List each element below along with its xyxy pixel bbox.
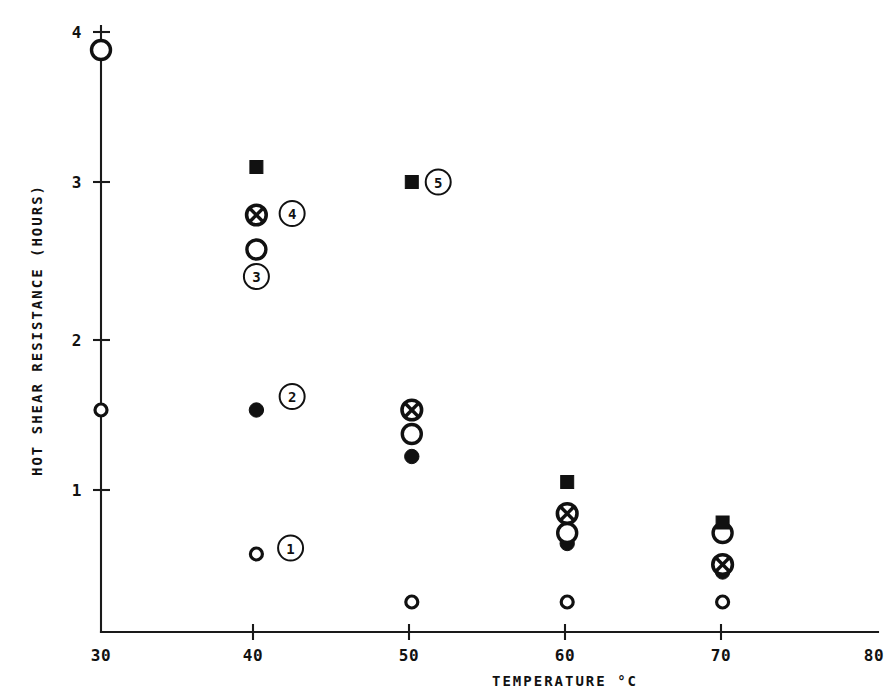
y-tick-label-1: 1 <box>72 481 82 500</box>
data-point-series-2 <box>405 449 419 463</box>
x-tick-label-50: 50 <box>399 646 419 665</box>
data-point-series-5 <box>250 161 263 174</box>
x-tick-label-30: 30 <box>91 646 111 665</box>
x-axis-title: TEMPERATURE °C <box>492 673 638 689</box>
series-callout-5: 5 <box>426 170 451 195</box>
data-point-series-4 <box>557 504 577 524</box>
data-point-series-4 <box>713 555 733 575</box>
data-point-series-1 <box>561 596 573 608</box>
data-point-series-5 <box>405 176 418 189</box>
scatter-plot-svg: 4 3 2 1 30 40 50 60 70 80 TEMPERATURE °C… <box>0 0 890 696</box>
y-tick-label-2: 2 <box>72 331 82 350</box>
axes-group <box>101 26 878 632</box>
data-point-series-4 <box>402 400 422 420</box>
data-point-series-5 <box>716 516 729 529</box>
series-callout-2: 2 <box>280 384 305 409</box>
series-callout-label: 4 <box>288 206 296 222</box>
data-point-series-3 <box>402 425 421 444</box>
x-tick-label-80: 80 <box>864 646 884 665</box>
series-callout-4: 4 <box>280 201 305 226</box>
data-point-series-5 <box>561 476 574 489</box>
series-callout-3: 3 <box>244 264 269 289</box>
data-point-series-4 <box>247 205 267 225</box>
data-point-series-3 <box>92 41 111 60</box>
y-axis-title: HOT SHEAR RESISTANCE (HOURS) <box>29 184 45 476</box>
y-tick-label-3: 3 <box>72 173 82 192</box>
series-callout-label: 5 <box>434 175 442 191</box>
data-point-series-1 <box>406 596 418 608</box>
y-axis-ticks: 4 3 2 1 <box>72 23 110 500</box>
data-point-series-1 <box>717 596 729 608</box>
data-point-series-3 <box>558 524 577 543</box>
y-tick-label-4: 4 <box>72 23 82 42</box>
data-point-series-1 <box>95 404 107 416</box>
x-tick-label-70: 70 <box>711 646 731 665</box>
series-callout-1: 1 <box>278 536 303 561</box>
data-markers-layer <box>92 41 733 609</box>
series-callouts-layer: 12345 <box>244 170 451 561</box>
data-point-series-1 <box>250 548 262 560</box>
x-axis-ticks: 30 40 50 60 70 80 <box>91 624 884 665</box>
series-callout-label: 1 <box>286 541 294 557</box>
chart-figure: 4 3 2 1 30 40 50 60 70 80 TEMPERATURE °C… <box>0 0 890 696</box>
x-tick-label-40: 40 <box>243 646 263 665</box>
series-callout-label: 3 <box>252 269 260 285</box>
data-point-series-2 <box>249 403 263 417</box>
data-point-series-3 <box>247 240 266 259</box>
x-tick-label-60: 60 <box>555 646 575 665</box>
series-callout-label: 2 <box>288 389 296 405</box>
